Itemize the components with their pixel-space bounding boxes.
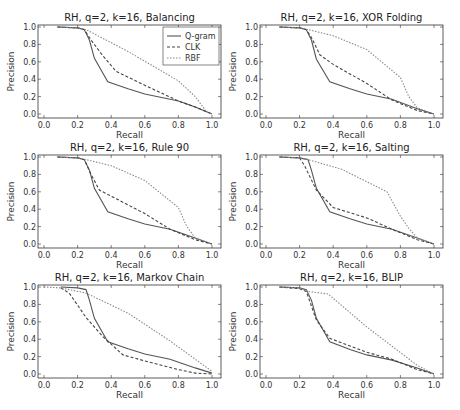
x-axis-label: Recall xyxy=(338,260,365,270)
x-tick-label: 0.6 xyxy=(360,251,373,260)
legend-label: Q-gram xyxy=(185,32,216,41)
x-tick-label: 1.0 xyxy=(428,121,441,130)
y-tick-label: 0.2 xyxy=(23,353,36,362)
y-axis-label: Precision xyxy=(228,51,238,91)
x-tick-label: 0.6 xyxy=(138,251,151,260)
x-tick-label: 0.8 xyxy=(394,381,407,390)
subplot-1: RH, q=2, k=16, Balancing0.00.20.40.60.81… xyxy=(6,12,221,140)
y-tick-label: 0.4 xyxy=(23,75,36,84)
x-tick-label: 0.8 xyxy=(394,121,407,130)
x-tick-label: 0.0 xyxy=(38,251,51,260)
y-axis-label: Precision xyxy=(6,311,16,351)
x-tick-label: 1.0 xyxy=(206,381,219,390)
subplot-6: RH, q=2, k=16, BLIP0.00.20.40.60.81.00.0… xyxy=(228,272,443,400)
plot-frame xyxy=(38,155,221,248)
x-tick-label: 0.2 xyxy=(71,251,84,260)
x-tick-label: 0.6 xyxy=(138,381,151,390)
x-tick-label: 0.0 xyxy=(260,121,273,130)
y-axis-label: Precision xyxy=(6,51,16,91)
y-tick-label: 1.0 xyxy=(23,153,36,162)
y-tick-label: 0.6 xyxy=(23,58,36,67)
x-axis-label: Recall xyxy=(116,260,143,270)
x-tick-label: 0.8 xyxy=(172,381,185,390)
y-tick-label: 0.0 xyxy=(23,240,36,249)
legend-label: RBF xyxy=(185,54,201,63)
y-tick-label: 0.4 xyxy=(23,205,36,214)
y-tick-label: 0.0 xyxy=(245,370,258,379)
x-tick-label: 0.2 xyxy=(293,121,306,130)
x-tick-label: 0.2 xyxy=(71,121,84,130)
x-tick-label: 0.4 xyxy=(327,251,340,260)
x-tick-label: 0.6 xyxy=(360,121,373,130)
x-axis-label: Recall xyxy=(338,130,365,140)
x-tick-label: 0.2 xyxy=(71,381,84,390)
y-axis-label: Precision xyxy=(6,181,16,221)
chart-title: RH, q=2, k=16, XOR Folding xyxy=(281,12,423,23)
x-tick-label: 0.4 xyxy=(105,121,118,130)
plot-frame xyxy=(260,25,443,118)
x-axis-label: Recall xyxy=(116,390,143,400)
x-tick-label: 0.6 xyxy=(360,381,373,390)
chart-title: RH, q=2, k=16, Markov Chain xyxy=(55,272,205,283)
y-tick-label: 1.0 xyxy=(245,283,258,292)
chart-title: RH, q=2, k=16, Rule 90 xyxy=(70,142,189,153)
y-tick-label: 0.8 xyxy=(245,170,258,179)
x-tick-label: 1.0 xyxy=(206,251,219,260)
y-axis-label: Precision xyxy=(228,181,238,221)
y-tick-label: 0.4 xyxy=(245,205,258,214)
plot-frame xyxy=(38,285,221,378)
y-tick-label: 0.4 xyxy=(245,335,258,344)
chart-title: RH, q=2, k=16, Balancing xyxy=(64,12,195,23)
y-tick-label: 0.8 xyxy=(23,40,36,49)
y-tick-label: 0.4 xyxy=(245,75,258,84)
y-tick-label: 1.0 xyxy=(245,153,258,162)
figure: RH, q=2, k=16, Balancing0.00.20.40.60.81… xyxy=(0,0,460,410)
y-tick-label: 0.6 xyxy=(23,318,36,327)
x-tick-label: 1.0 xyxy=(428,381,441,390)
plot-frame xyxy=(260,155,443,248)
y-tick-label: 0.2 xyxy=(245,353,258,362)
y-tick-label: 0.6 xyxy=(23,188,36,197)
chart-title: RH, q=2, k=16, BLIP xyxy=(300,272,403,283)
x-tick-label: 0.6 xyxy=(138,121,151,130)
y-tick-label: 0.0 xyxy=(245,240,258,249)
y-tick-label: 0.0 xyxy=(23,110,36,119)
x-tick-label: 0.4 xyxy=(105,251,118,260)
y-tick-label: 0.6 xyxy=(245,318,258,327)
x-tick-label: 0.0 xyxy=(38,121,51,130)
y-tick-label: 0.8 xyxy=(23,300,36,309)
x-axis-label: Recall xyxy=(338,390,365,400)
y-tick-label: 0.8 xyxy=(245,300,258,309)
subplot-4: RH, q=2, k=16, Salting0.00.20.40.60.81.0… xyxy=(228,142,443,270)
y-tick-label: 0.4 xyxy=(23,335,36,344)
x-tick-label: 0.8 xyxy=(394,251,407,260)
y-tick-label: 0.0 xyxy=(23,370,36,379)
x-tick-label: 0.2 xyxy=(293,381,306,390)
x-tick-label: 0.0 xyxy=(38,381,51,390)
x-tick-label: 0.2 xyxy=(293,251,306,260)
x-tick-label: 0.4 xyxy=(105,381,118,390)
y-tick-label: 1.0 xyxy=(23,283,36,292)
y-tick-label: 1.0 xyxy=(245,23,258,32)
legend-label: CLK xyxy=(185,43,201,52)
y-tick-label: 0.8 xyxy=(245,40,258,49)
x-tick-label: 0.4 xyxy=(327,381,340,390)
chart-title: RH, q=2, k=16, Salting xyxy=(293,142,409,153)
y-tick-label: 0.2 xyxy=(23,93,36,102)
x-tick-label: 0.4 xyxy=(327,121,340,130)
x-tick-label: 0.0 xyxy=(260,381,273,390)
plot-frame xyxy=(260,285,443,378)
y-tick-label: 0.6 xyxy=(245,188,258,197)
y-tick-label: 0.2 xyxy=(23,223,36,232)
x-tick-label: 0.0 xyxy=(260,251,273,260)
y-tick-label: 0.0 xyxy=(245,110,258,119)
subplot-2: RH, q=2, k=16, XOR Folding0.00.20.40.60.… xyxy=(228,12,443,140)
y-tick-label: 0.2 xyxy=(245,93,258,102)
subplot-3: RH, q=2, k=16, Rule 900.00.20.40.60.81.0… xyxy=(6,142,221,270)
y-axis-label: Precision xyxy=(228,311,238,351)
y-tick-label: 1.0 xyxy=(23,23,36,32)
x-axis-label: Recall xyxy=(116,130,143,140)
x-tick-label: 0.8 xyxy=(172,121,185,130)
x-tick-label: 1.0 xyxy=(428,251,441,260)
subplot-5: RH, q=2, k=16, Markov Chain0.00.20.40.60… xyxy=(6,272,221,400)
